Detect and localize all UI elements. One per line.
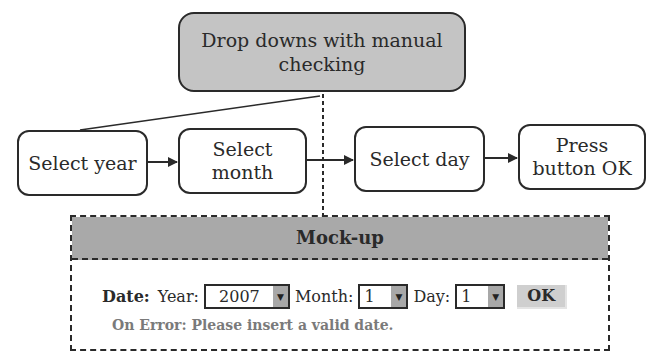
step-label: Select year — [28, 152, 136, 175]
step-press-button-ok: Press button OK — [518, 124, 646, 190]
step-label: Press button OK — [526, 134, 638, 180]
dropdown-arrow-icon[interactable]: ▼ — [391, 286, 406, 307]
month-select[interactable]: 1 ▼ — [358, 284, 408, 309]
date-form-row: Date: Year: 2007 ▼ Month: 1 ▼ Day: 1 ▼ O… — [102, 284, 567, 309]
mockup-panel: Mock-up Date: Year: 2007 ▼ Month: 1 ▼ Da… — [70, 215, 610, 351]
date-label: Date: — [102, 287, 150, 306]
dropdown-arrow-icon[interactable]: ▼ — [273, 286, 288, 307]
step-label: Select month — [180, 138, 305, 184]
ok-button[interactable]: OK — [517, 285, 567, 309]
step-select-month: Select month — [178, 128, 307, 194]
mockup-title: Mock-up — [296, 227, 384, 248]
error-message: On Error: Please insert a valid date. — [112, 317, 393, 333]
step-select-year: Select year — [17, 130, 148, 196]
month-select-value: 1 — [360, 286, 391, 307]
year-label: Year: — [158, 287, 199, 306]
year-select[interactable]: 2007 ▼ — [204, 284, 290, 309]
step-label: Select day — [369, 148, 469, 171]
step-select-day: Select day — [354, 126, 485, 192]
day-select-value: 1 — [457, 286, 488, 307]
diagonal-link-line — [80, 96, 320, 130]
day-label: Day: — [413, 287, 450, 306]
top-node-label: Drop downs with manual checking — [188, 28, 456, 76]
day-select[interactable]: 1 ▼ — [455, 284, 505, 309]
dropdown-arrow-icon[interactable]: ▼ — [488, 286, 503, 307]
top-node-dropdowns-manual-checking: Drop downs with manual checking — [178, 12, 466, 92]
month-label: Month: — [295, 287, 353, 306]
year-select-value: 2007 — [206, 286, 273, 307]
mockup-header: Mock-up — [72, 217, 608, 260]
